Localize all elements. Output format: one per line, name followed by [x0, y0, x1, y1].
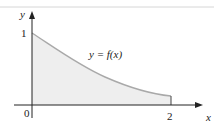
x-axis-label: x [205, 111, 211, 123]
tick-label-y-one: 1 [21, 27, 27, 39]
shaded-area [32, 33, 171, 105]
function-label: y = f(x) [88, 48, 122, 61]
tick-label-x-two: 2 [167, 110, 173, 122]
y-axis-arrow-icon [29, 11, 35, 19]
tick-label-origin: 0 [24, 107, 30, 119]
area-under-curve-diagram: y x 1 0 2 y = f(x) [0, 0, 214, 129]
x-axis-arrow-icon [195, 102, 203, 108]
y-axis-label: y [19, 8, 25, 20]
